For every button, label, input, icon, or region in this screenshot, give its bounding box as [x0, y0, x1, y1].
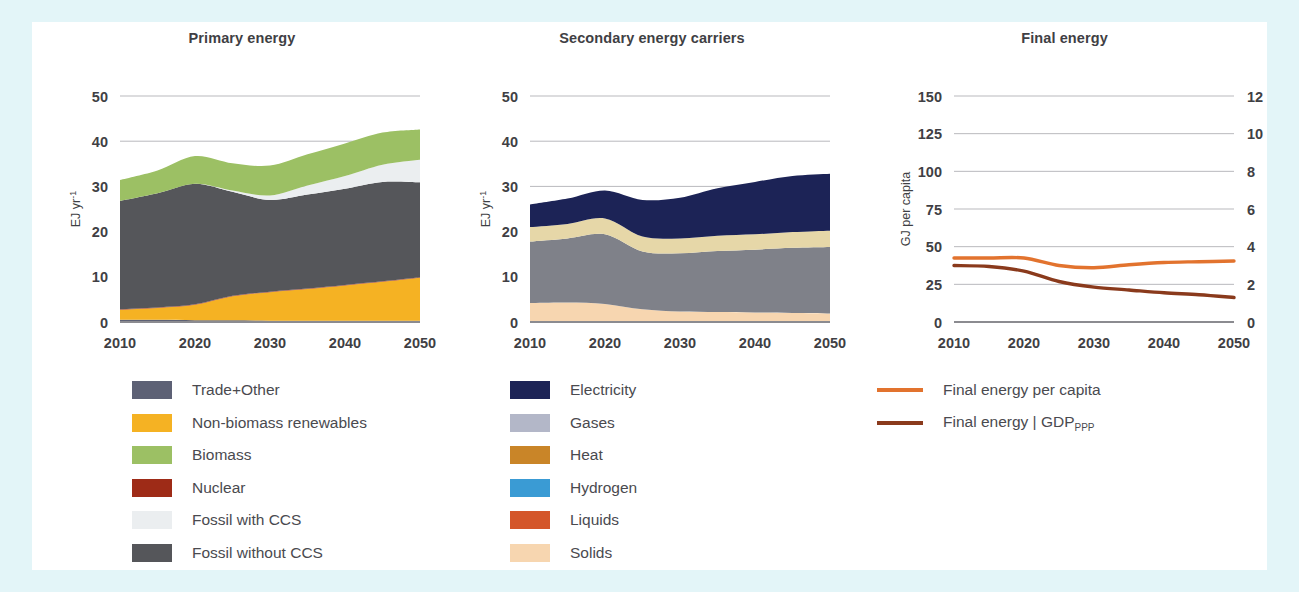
y-axis-title-group: EJ yr-1 [478, 191, 493, 228]
y-axis-title-exponent: -1 [478, 191, 488, 199]
secondary-svg: 01020304050 20102020203020402050 EJ yr-1 [452, 22, 852, 352]
y-tick-label-left: 25 [926, 277, 942, 293]
legend-item-subscript: PPP [1075, 422, 1095, 433]
legend-item-label: Trade+Other [192, 381, 280, 399]
y-tick-label: 20 [92, 224, 108, 240]
y-tick-label-left: 0 [934, 315, 942, 331]
final-y-ticklabels-left: 0255075100125150 [918, 89, 942, 331]
plot-final: 0255075100125150 024681012 2010202020302… [862, 22, 1267, 352]
legend-item[interactable]: Liquids [510, 504, 810, 537]
y-tick-label: 20 [502, 224, 518, 240]
x-tick-label: 2040 [1148, 335, 1180, 351]
legend-color-swatch [132, 544, 172, 562]
y-tick-label: 30 [92, 179, 108, 195]
legend-color-swatch [132, 511, 172, 529]
y-tick-label-left: 125 [918, 126, 942, 142]
y-tick-label-right: 10 [1247, 126, 1263, 142]
plot-primary: 01020304050 20102020203020402050 EJ yr-1 [42, 22, 442, 352]
y-axis-title-left-group: GJ per capita [899, 172, 913, 246]
legend-item[interactable]: Gases [510, 407, 810, 440]
legend-color-swatch [510, 446, 550, 464]
legend-item[interactable]: Fossil with CCS [132, 504, 462, 537]
y-tick-label-left: 50 [926, 239, 942, 255]
y-axis-title-group: EJ yr-1 [68, 191, 83, 228]
y-tick-label: 40 [92, 134, 108, 150]
legend-item[interactable]: Electricity [510, 374, 810, 407]
figure-card: Primary energy 01020304050 2010202020302… [32, 22, 1267, 570]
legend-secondary-energy: ElectricityGasesHeatHydrogenLiquidsSolid… [510, 374, 810, 569]
legend-item[interactable]: Nuclear [132, 472, 462, 505]
x-tick-label: 2050 [1218, 335, 1250, 351]
legend-item[interactable]: Fossil without CCS [132, 537, 462, 570]
y-axis-title-left: GJ per capita [899, 172, 913, 246]
panel-final-energy: Final energy 0255075100125150 024681012 … [862, 22, 1267, 352]
y-tick-label-right: 8 [1247, 164, 1255, 180]
x-tick-label: 2030 [1078, 335, 1110, 351]
y-axis-title: EJ yr-1 [68, 191, 83, 228]
x-tick-label: 2040 [739, 335, 771, 351]
x-tick-label: 2010 [938, 335, 970, 351]
x-tick-label: 2030 [254, 335, 286, 351]
legend-primary-energy: Trade+OtherNon-biomass renewablesBiomass… [132, 374, 462, 569]
y-tick-label-right: 12 [1247, 89, 1263, 105]
final-lines [954, 257, 1234, 297]
y-tick-label-right: 2 [1247, 277, 1255, 293]
y-tick-label: 10 [502, 269, 518, 285]
legend-item-label: Fossil with CCS [192, 511, 301, 529]
legend-item[interactable]: Heat [510, 439, 810, 472]
legend-item-label: Final energy per capita [943, 381, 1101, 399]
legend-item-label: Final energy | GDPPPP [943, 413, 1095, 433]
final-svg: 0255075100125150 024681012 2010202020302… [862, 22, 1267, 352]
legend-color-swatch [132, 381, 172, 399]
y-tick-label-right: 6 [1247, 202, 1255, 218]
legend-item-label: Solids [570, 544, 612, 562]
legend-item-label: Nuclear [192, 479, 245, 497]
legend-item[interactable]: Biomass [132, 439, 462, 472]
panel-primary-energy: Primary energy 01020304050 2010202020302… [42, 22, 442, 352]
y-tick-label-left: 150 [918, 89, 942, 105]
x-tick-label: 2040 [329, 335, 361, 351]
legend-item[interactable]: Final energy per capita [877, 374, 1257, 407]
legend-item-label: Gases [570, 414, 615, 432]
legend-color-swatch [510, 414, 550, 432]
legend-item-label: Fossil without CCS [192, 544, 323, 562]
x-tick-label: 2010 [104, 335, 136, 351]
secondary-y-ticklabels: 01020304050 [502, 89, 518, 331]
secondary-y-axis-title: EJ yr-1 [478, 191, 493, 228]
legend-color-swatch [510, 381, 550, 399]
primary-areas [120, 129, 420, 322]
primary-svg: 01020304050 20102020203020402050 EJ yr-1 [42, 22, 442, 352]
y-tick-label: 30 [502, 179, 518, 195]
primary-y-axis-title: EJ yr-1 [68, 191, 83, 228]
y-tick-label-left: 75 [926, 202, 942, 218]
primary-x-ticklabels: 20102020203020402050 [104, 335, 436, 351]
y-tick-label: 0 [510, 315, 518, 331]
secondary-x-ticklabels: 20102020203020402050 [514, 335, 846, 351]
x-tick-label: 2050 [814, 335, 846, 351]
panels-row: Primary energy 01020304050 2010202020302… [32, 22, 1267, 352]
legend-color-swatch [132, 479, 172, 497]
secondary-areas [530, 174, 830, 322]
legend-line-swatch [877, 421, 923, 425]
legend-item[interactable]: Solids [510, 537, 810, 570]
y-tick-label: 40 [502, 134, 518, 150]
y-axis-title: EJ yr-1 [478, 191, 493, 228]
legend-item-label: Electricity [570, 381, 636, 399]
legend-color-swatch [510, 511, 550, 529]
x-tick-label: 2020 [179, 335, 211, 351]
legend-item[interactable]: Final energy | GDPPPP [877, 407, 1257, 440]
legend-item[interactable]: Trade+Other [132, 374, 462, 407]
panel-secondary-energy-carriers: Secondary energy carriers 01020304050 20… [452, 22, 852, 352]
final-gridlines [954, 96, 1234, 284]
legend-item[interactable]: Non-biomass renewables [132, 407, 462, 440]
y-tick-label: 50 [502, 89, 518, 105]
final-y-axis-title-left: GJ per capita [899, 172, 913, 246]
plot-secondary: 01020304050 20102020203020402050 EJ yr-1 [452, 22, 852, 352]
legend-item[interactable]: Hydrogen [510, 472, 810, 505]
legend-item-label: Liquids [570, 511, 619, 529]
final-x-ticklabels: 20102020203020402050 [938, 335, 1250, 351]
x-tick-label: 2030 [664, 335, 696, 351]
legend-line-swatch [877, 388, 923, 392]
x-tick-label: 2020 [1008, 335, 1040, 351]
y-tick-label: 0 [100, 315, 108, 331]
